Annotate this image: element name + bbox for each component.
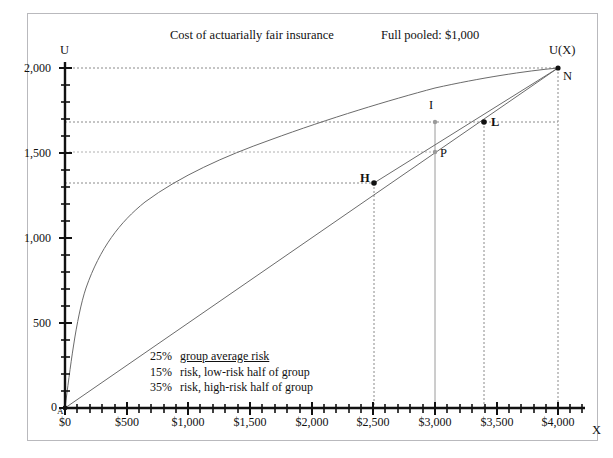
point-label-l: L: [491, 116, 499, 129]
legend-pct-2: 35%: [150, 380, 180, 396]
point-label-i: I: [429, 99, 433, 112]
x-ticklabel-1500: $1,500: [220, 416, 280, 428]
chart-page: Cost of actuarially fair insurance Full …: [0, 0, 613, 458]
x-ticklabel-3500: $3,500: [467, 416, 527, 428]
point-marker-p: [433, 150, 437, 154]
legend-item-1: 15%risk, low-risk half of group: [150, 365, 313, 381]
point-marker-l: [481, 119, 487, 125]
x-ticklabel-2500: $2,500: [343, 416, 403, 428]
legend-text-2: risk, high-risk half of group: [180, 380, 313, 394]
x-ticklabel-1000: $1,000: [158, 416, 218, 428]
x-ticklabel-4000: $4,000: [528, 416, 588, 428]
y-ticklabel-2000: 2,000: [3, 62, 51, 74]
x-ticklabel-3000: $3,000: [405, 416, 465, 428]
legend-text-1: risk, low-risk half of group: [180, 365, 310, 379]
y-ticklabel-500: 500: [3, 317, 51, 329]
x-ticklabel-500: $500: [97, 416, 157, 428]
guide-lines-vertical: [374, 68, 558, 408]
point-marker-i: [433, 120, 437, 124]
curve-label-ux: U(X): [549, 44, 575, 57]
point-marker-h: [371, 180, 377, 186]
y-ticklabel-1000: 1,000: [3, 232, 51, 244]
point-label-p: P: [440, 147, 447, 160]
point-label-h: H: [360, 172, 370, 185]
point-marker-n: [555, 65, 560, 70]
legend: 25%group average risk 15%risk, low-risk …: [150, 349, 313, 396]
legend-pct-1: 15%: [150, 365, 180, 381]
legend-item-0: 25%group average risk: [150, 349, 313, 365]
x-ticklabel-2000: $2,000: [282, 416, 342, 428]
chart-subtitle: Full pooled: $1,000: [381, 29, 479, 42]
legend-text-0: group average risk: [180, 349, 269, 363]
y-axis-label: U: [60, 44, 69, 57]
y-ticklabel-1500: 1,500: [3, 147, 51, 159]
chart-title: Cost of actuarially fair insurance: [170, 29, 334, 42]
x-ticklabel-0: $0: [35, 416, 95, 428]
legend-item-2: 35%risk, high-risk half of group: [150, 380, 313, 396]
chord-h-to-n: [374, 68, 558, 183]
legend-pct-0: 25%: [150, 349, 180, 365]
point-label-n: N: [563, 70, 572, 83]
x-axis-label: X: [592, 424, 601, 437]
